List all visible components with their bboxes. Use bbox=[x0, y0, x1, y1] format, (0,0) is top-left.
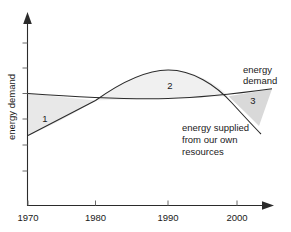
x-axis-label-1970: 1970 bbox=[17, 212, 38, 223]
x-axis-label-1990: 1990 bbox=[157, 212, 178, 223]
y-axis-arrowhead bbox=[23, 12, 32, 24]
annotation-energy-supplied-line3: resources bbox=[182, 146, 224, 157]
x-axis-label-2000: 2000 bbox=[226, 212, 247, 223]
shaded-region-1 bbox=[28, 94, 96, 136]
region-label-1: 1 bbox=[42, 113, 47, 124]
x-axis-arrowhead bbox=[262, 201, 274, 210]
annotation-energy-demand-line2: demand bbox=[243, 75, 277, 86]
y-axis-title: energy demand bbox=[6, 74, 17, 140]
chart-canvas: energy demand 1970 1980 1990 2000 1 2 3 … bbox=[0, 0, 291, 232]
region-label-3: 3 bbox=[250, 95, 255, 106]
x-axis-label-1980: 1980 bbox=[85, 212, 106, 223]
energy-chart: energy demand 1970 1980 1990 2000 1 2 3 … bbox=[0, 0, 291, 232]
x-axis bbox=[28, 201, 275, 210]
annotation-energy-demand-line1: energy bbox=[243, 64, 272, 75]
region-label-2: 2 bbox=[167, 80, 172, 91]
annotation-energy-supplied-line1: energy supplied bbox=[182, 122, 249, 133]
annotation-energy-supplied-line2: from our own bbox=[182, 134, 237, 145]
